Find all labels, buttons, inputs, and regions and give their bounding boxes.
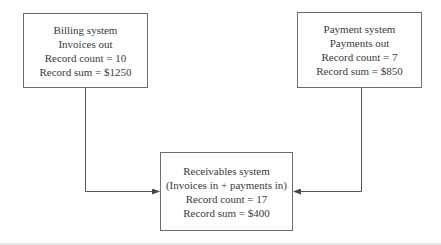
billing-system-node: Billing system Invoices out Record count… [23,13,148,88]
payment-system-node: Payment system Payments out Record count… [297,12,422,88]
node-title: Receivables system [183,164,269,178]
record-sum: Record sum = $850 [316,64,403,78]
node-subtitle: Payments out [330,36,390,50]
record-sum: Record sum = $1250 [39,65,131,79]
billing-to-receivables-arrow [86,88,160,192]
record-count: Record count = 17 [186,192,268,206]
node-subtitle: (Invoices in + payments in) [166,178,287,192]
record-sum: Record sum = $400 [183,206,270,220]
record-count: Record count = 10 [45,51,127,65]
record-count: Record count = 7 [321,50,397,64]
node-subtitle: Invoices out [58,37,112,51]
payment-to-receivables-arrow [294,88,362,192]
receivables-system-node: Receivables system (Invoices in + paymen… [160,152,293,231]
node-title: Billing system [54,23,118,37]
node-title: Payment system [324,22,396,36]
